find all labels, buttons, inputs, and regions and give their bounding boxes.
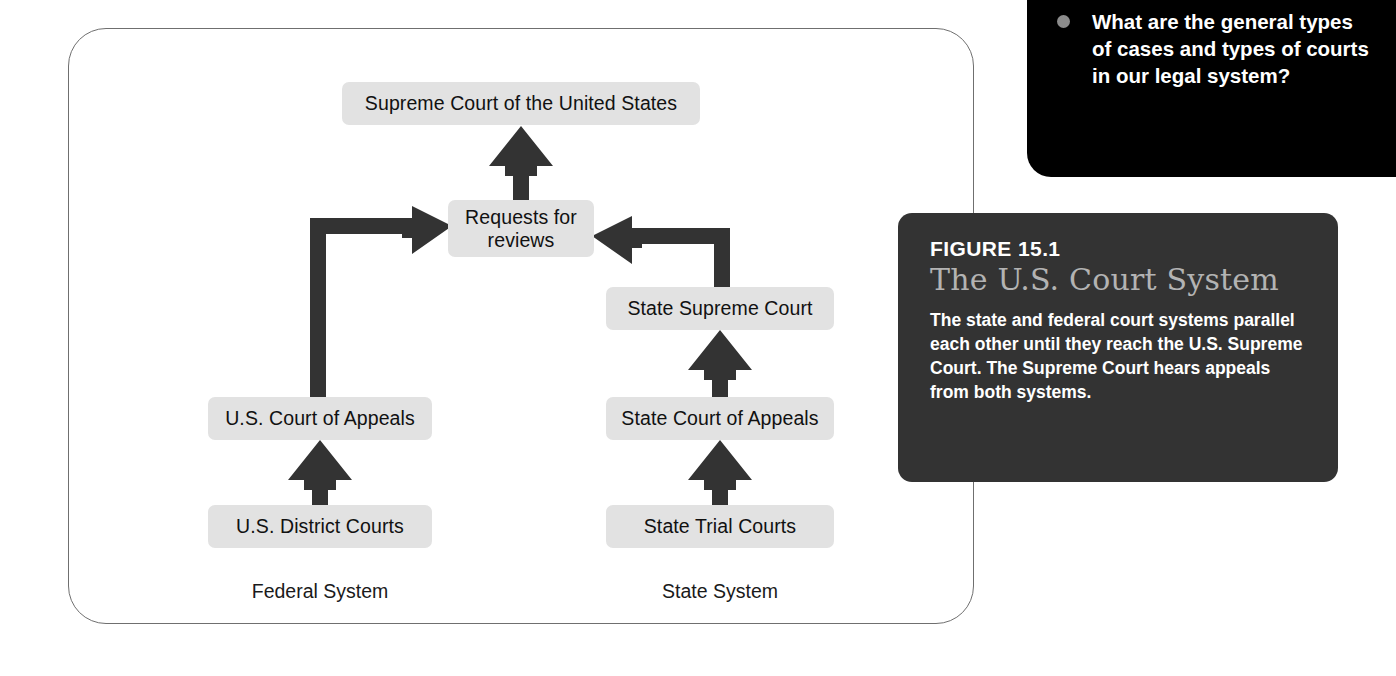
- node-state-court-of-appeals: State Court of Appeals: [606, 397, 834, 440]
- node-us-district-courts: U.S. District Courts: [208, 505, 432, 548]
- label-state-system: State System: [606, 580, 834, 603]
- node-state-supreme-court: State Supreme Court: [606, 287, 834, 330]
- figure-caption-card: FIGURE 15.1 The U.S. Court System The st…: [898, 213, 1338, 482]
- figure-number-label: FIGURE 15.1: [930, 237, 1308, 261]
- question-callout: What are the general types of cases and …: [1027, 0, 1396, 177]
- node-supreme-court-of-the-united-states: Supreme Court of the United States: [342, 82, 700, 125]
- label-federal-system: Federal System: [208, 580, 432, 603]
- question-text: What are the general types of cases and …: [1092, 10, 1369, 87]
- node-state-trial-courts: State Trial Courts: [606, 505, 834, 548]
- question-list-item: What are the general types of cases and …: [1057, 8, 1370, 89]
- figure-title: The U.S. Court System: [930, 263, 1308, 297]
- question-list: What are the general types of cases and …: [1057, 8, 1370, 89]
- bullet-dot-icon: [1057, 15, 1070, 28]
- node-requests-for-reviews: Requests for reviews: [448, 200, 594, 257]
- figure-caption-body: The state and federal court systems para…: [930, 308, 1308, 405]
- node-us-court-of-appeals: U.S. Court of Appeals: [208, 397, 432, 440]
